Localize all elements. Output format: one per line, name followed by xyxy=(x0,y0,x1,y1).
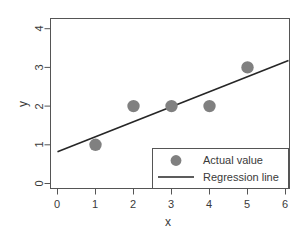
scatter-plot-figure: 0 1 2 3 4 5 6 0 1 2 3 4 x y Actual value… xyxy=(0,0,308,239)
data-point xyxy=(203,100,215,112)
data-point xyxy=(89,139,101,151)
y-tick-label-2: 2 xyxy=(34,101,45,113)
x-tick-label-6: 6 xyxy=(282,199,288,210)
x-tick-label-1: 1 xyxy=(92,199,98,210)
legend-label-regression-line: Regression line xyxy=(203,172,279,183)
y-tick-label-0: 0 xyxy=(34,178,45,190)
y-tick-label-3: 3 xyxy=(34,62,45,74)
x-axis-title: x xyxy=(165,216,171,228)
y-tick-label-4: 4 xyxy=(34,23,45,35)
plot-canvas xyxy=(0,0,308,239)
data-point xyxy=(241,61,253,73)
x-tick-label-4: 4 xyxy=(206,199,212,210)
x-tick-label-5: 5 xyxy=(244,199,250,210)
legend-marker-actual-value xyxy=(171,155,182,166)
y-axis-title: y xyxy=(17,97,29,111)
legend-label-actual-value: Actual value xyxy=(203,155,263,166)
data-point xyxy=(165,100,177,112)
y-tick-label-1: 1 xyxy=(34,139,45,151)
x-tick-label-0: 0 xyxy=(54,199,60,210)
x-axis-ticks xyxy=(58,189,286,195)
x-tick-label-2: 2 xyxy=(130,199,136,210)
x-tick-label-3: 3 xyxy=(168,199,174,210)
data-point xyxy=(127,100,139,112)
y-axis-ticks xyxy=(45,29,51,184)
